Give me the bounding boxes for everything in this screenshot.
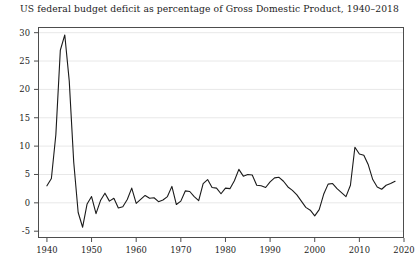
- x-axis-tick-label: 1960: [126, 245, 147, 255]
- y-axis-tick-label: 10: [0, 141, 30, 151]
- x-axis-tick-label: 1990: [259, 245, 280, 255]
- y-axis-tick-label: -5: [0, 226, 30, 236]
- data-line-series-0: [47, 35, 395, 227]
- x-axis-tick-label: 2010: [349, 245, 370, 255]
- x-axis-tick-label: 1980: [215, 245, 236, 255]
- y-axis-tick-label: 20: [0, 84, 30, 94]
- plot-area: [32, 27, 398, 238]
- y-axis-tick-label: 15: [0, 113, 30, 123]
- chart-title: US federal budget deficit as percentage …: [0, 3, 419, 14]
- x-axis-tick-label: 1950: [81, 245, 102, 255]
- x-axis-tick-label: 2020: [393, 245, 414, 255]
- plot-frame: [39, 28, 404, 238]
- y-axis-tick-label: 0: [0, 198, 30, 208]
- chart-figure: US federal budget deficit as percentage …: [0, 0, 419, 271]
- y-axis-tick-label: 30: [0, 28, 30, 38]
- x-axis-tick-label: 1970: [170, 245, 191, 255]
- y-axis-tick-label: 25: [0, 56, 30, 66]
- x-axis-tick-label: 2000: [304, 245, 325, 255]
- x-axis-tick-label: 1940: [36, 245, 57, 255]
- plot-svg: [32, 27, 410, 245]
- y-axis-tick-label: 5: [0, 169, 30, 179]
